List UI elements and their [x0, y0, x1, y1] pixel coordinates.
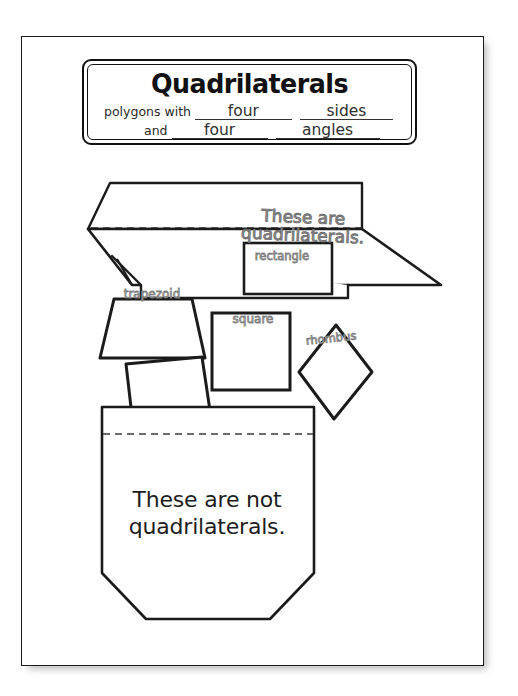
definition-lead-1: polygons with [104, 104, 191, 120]
title-card-inner-border: Quadrilaterals polygons with four sides … [87, 64, 412, 140]
pocket-caption-line-2: quadrilaterals. [82, 514, 332, 541]
definition-line-2: and four angles [104, 122, 397, 139]
page-title: Quadrilaterals [98, 68, 402, 99]
shape-square [212, 313, 290, 390]
worksheet-screenshot: Quadrilaterals polygons with four sides … [0, 0, 518, 696]
pocket-caption-line-1: These are not [82, 487, 332, 514]
definition-line-1: polygons with four sides [104, 103, 397, 120]
flap-back-panel [88, 183, 362, 229]
pocket-caption: These are not quadrilaterals. [82, 487, 332, 541]
title-card: Quadrilaterals polygons with four sides … [82, 59, 417, 145]
definition-lead-2: and [144, 123, 168, 139]
worksheet-page: Quadrilaterals polygons with four sides … [21, 36, 484, 666]
blank-four-angles[interactable]: four [172, 122, 268, 139]
blank-four-sides[interactable]: four [195, 103, 292, 120]
shape-rhombus [299, 325, 372, 419]
blank-angles[interactable]: angles [276, 122, 380, 139]
shape-rectangle [244, 243, 332, 294]
shape-trapezoid [100, 299, 205, 358]
blank-sides[interactable]: sides [300, 103, 393, 120]
